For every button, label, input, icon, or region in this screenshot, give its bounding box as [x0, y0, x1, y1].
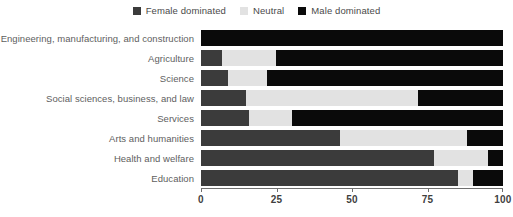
x-axis-tick-label: 75: [422, 194, 434, 205]
bar-segment[interactable]: [228, 70, 267, 86]
x-axis-tick: [201, 188, 202, 192]
stacked-bar[interactable]: [201, 150, 503, 166]
bar-segment[interactable]: [201, 50, 222, 66]
chart-row: Health and welfare: [0, 148, 513, 168]
category-label: Education: [0, 168, 194, 188]
legend-swatch-male-dominated: [298, 7, 306, 15]
chart-row: Agriculture: [0, 48, 513, 68]
bar-segment[interactable]: [201, 150, 434, 166]
legend-item[interactable]: Neutral: [240, 6, 284, 16]
category-label: Services: [0, 108, 194, 128]
bar-segment[interactable]: [458, 170, 473, 186]
category-label: Arts and humanities: [0, 128, 194, 148]
bar-segment[interactable]: [201, 110, 249, 126]
bar-segment[interactable]: [201, 30, 503, 46]
bar-segment[interactable]: [222, 50, 276, 66]
bar-segment[interactable]: [418, 90, 503, 106]
stacked-bar[interactable]: [201, 30, 503, 46]
category-label: Science: [0, 68, 194, 88]
bar-segment[interactable]: [340, 130, 467, 146]
stacked-bar[interactable]: [201, 170, 503, 186]
chart-row: Social sciences, business, and law: [0, 88, 513, 108]
chart-row: Education: [0, 168, 513, 188]
chart-row: Arts and humanities: [0, 128, 513, 148]
stacked-bar[interactable]: [201, 90, 503, 106]
x-axis-tick: [352, 188, 353, 192]
bar-segment[interactable]: [488, 150, 503, 166]
bar-segment[interactable]: [276, 50, 503, 66]
legend-item-label: Male dominated: [311, 6, 380, 16]
bar-segment[interactable]: [434, 150, 488, 166]
chart-legend: Female dominatedNeutralMale dominated: [0, 6, 513, 16]
x-axis-tick-label: 100: [494, 194, 511, 205]
bar-segment[interactable]: [267, 70, 503, 86]
x-axis-tick-label: 50: [346, 194, 358, 205]
stacked-bar[interactable]: [201, 130, 503, 146]
legend-swatch-female-dominated: [133, 7, 141, 15]
x-axis-tick: [277, 188, 278, 192]
bar-segment[interactable]: [201, 130, 340, 146]
x-axis: 0255075100: [201, 188, 503, 217]
chart-row: Science: [0, 68, 513, 88]
bar-segment[interactable]: [246, 90, 418, 106]
chart-row: Services: [0, 108, 513, 128]
category-label: Agriculture: [0, 48, 194, 68]
category-label: Engineering, manufacturing, and construc…: [0, 28, 194, 48]
bar-segment[interactable]: [201, 170, 458, 186]
bar-segment[interactable]: [201, 90, 246, 106]
legend-swatch-neutral: [240, 7, 248, 15]
x-axis-tick-label: 0: [198, 194, 204, 205]
legend-item[interactable]: Female dominated: [133, 6, 226, 16]
bar-segment[interactable]: [249, 110, 291, 126]
plot-area: Engineering, manufacturing, and construc…: [0, 28, 513, 188]
category-label: Health and welfare: [0, 148, 194, 168]
legend-item-label: Neutral: [253, 6, 284, 16]
stacked-bar[interactable]: [201, 110, 503, 126]
bar-segment[interactable]: [467, 130, 503, 146]
stacked-bar[interactable]: [201, 50, 503, 66]
x-axis-tick: [428, 188, 429, 192]
stacked-bar[interactable]: [201, 70, 503, 86]
legend-item-label: Female dominated: [146, 6, 226, 16]
category-label: Social sciences, business, and law: [0, 88, 194, 108]
stacked-bar-chart: Female dominatedNeutralMale dominated En…: [0, 0, 513, 217]
bar-segment[interactable]: [473, 170, 503, 186]
x-axis-tick: [502, 188, 503, 192]
x-axis-tick-label: 25: [271, 194, 283, 205]
chart-row: Engineering, manufacturing, and construc…: [0, 28, 513, 48]
legend-item[interactable]: Male dominated: [298, 6, 380, 16]
bar-segment[interactable]: [292, 110, 503, 126]
bar-segment[interactable]: [201, 70, 228, 86]
